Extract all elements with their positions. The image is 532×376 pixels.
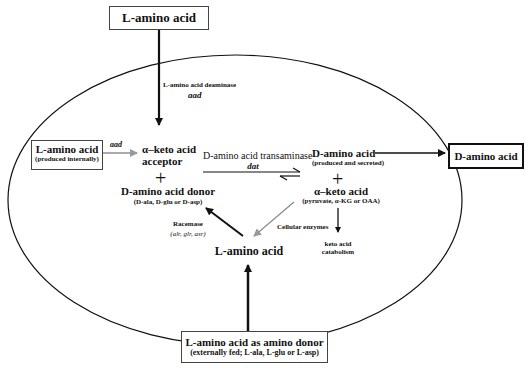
keto-product-sublabel: (pyruvate, α-KG or OAA) [302, 197, 380, 205]
cell-boundary [8, 55, 462, 345]
transaminase-gene: dat [203, 161, 303, 171]
keto-acceptor-line2: acceptor [142, 155, 180, 167]
deaminase-label: L-amino acid deaminase [163, 81, 236, 89]
racemase-genes: (alr, glr, asr) [166, 230, 210, 238]
bottom-box-label: L-amino acid as amino donor [182, 336, 327, 348]
internal-l-amino-acid-box: L-amino acid (produced internally) [31, 140, 103, 170]
catabolism-line1: keto acid [320, 240, 356, 248]
d-donor-sublabel: (D-ala, D-glu or D-asp) [118, 198, 218, 206]
top-l-amino-acid-box: L-amino acid [109, 6, 209, 30]
top-box-label: L-amino acid [110, 7, 208, 29]
d-amino-product-sublabel: (produced and secreted) [312, 159, 372, 167]
internal-arrow-gene: aad [110, 140, 122, 149]
secreted-box-label: D-amino acid [450, 145, 522, 167]
diagram-lines [0, 0, 532, 376]
transaminase-label: D-amino acid transaminase [203, 150, 303, 161]
internal-box-label: L-amino acid [32, 143, 102, 155]
bottom-box-sublabel: (externally fed; L-ala, L-glu or L-asp) [182, 348, 327, 357]
bottom-feed-box: L-amino acid as amino donor (externally … [181, 331, 328, 363]
catabolism-line2: catabolism [320, 248, 356, 256]
racemase-arrow [206, 208, 243, 236]
keto-product-label: α–keto acid [302, 185, 380, 197]
deaminase-gene: aad [188, 90, 202, 100]
internal-box-sublabel: (produced internally) [32, 155, 102, 163]
secreted-d-amino-acid-box: D-amino acid [448, 143, 524, 169]
d-amino-product-label: D-amino acid [312, 147, 372, 159]
l-amino-center: L-amino acid [212, 244, 286, 259]
d-donor-label: D-amino acid donor [118, 185, 218, 197]
racemase-label: Racemase [168, 220, 208, 228]
cellular-enzymes-label: Cellular enzymes [277, 223, 328, 231]
keto-acceptor-line1: α–keto acid [142, 143, 180, 155]
